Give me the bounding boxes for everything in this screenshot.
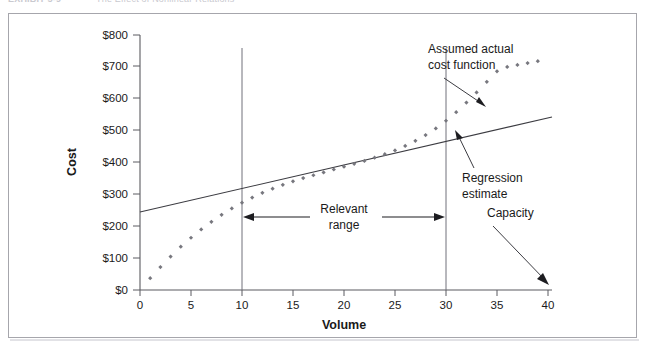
exhibit-figure: EXHIBIT 5-9 The Effect of Nonlinear Rela…	[0, 0, 649, 352]
figure-label: EXHIBIT 5-9	[8, 0, 61, 4]
figure-caption-strip: EXHIBIT 5-9 The Effect of Nonlinear Rela…	[0, 0, 649, 9]
figure-title: The Effect of Nonlinear Relations	[96, 0, 235, 4]
figure-frame	[8, 13, 637, 338]
figure-frame-shadow	[10, 339, 639, 341]
